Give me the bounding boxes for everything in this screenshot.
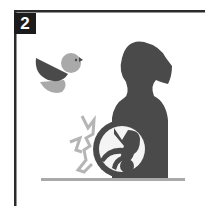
baby-in-circle-icon (93, 120, 151, 178)
frame (14, 10, 205, 206)
ground-line (41, 178, 185, 181)
impact-burst-icon (70, 116, 94, 172)
step-number-badge: 2 (14, 13, 36, 34)
illustration-panel: 2 (0, 0, 205, 206)
bird-icon (36, 53, 83, 93)
